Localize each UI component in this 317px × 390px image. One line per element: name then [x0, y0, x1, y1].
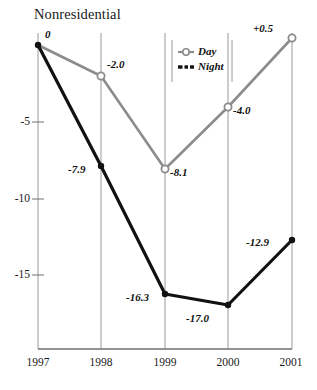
- day-point-2001: [288, 34, 295, 41]
- point-label-day-2001: +0.5: [253, 22, 273, 34]
- night-point-2001: [289, 237, 295, 243]
- night-point-1997: [35, 42, 41, 48]
- legend-label-night: Night: [198, 60, 224, 72]
- point-label-day-1998: -2.0: [107, 58, 124, 70]
- point-label-day-1999: -8.1: [170, 166, 187, 178]
- y-tick-label-minus5: -5: [2, 115, 30, 127]
- point-label-zero: 0: [45, 28, 51, 40]
- series-day: [38, 34, 296, 172]
- point-label-night-2000: -17.0: [186, 312, 209, 324]
- day-point-2000: [224, 103, 231, 110]
- y-tick-label-minus10: -10: [2, 192, 30, 204]
- night-point-2000: [225, 302, 231, 308]
- day-point-1998: [97, 72, 104, 79]
- day-point-1999: [161, 165, 168, 172]
- x-tick-label-1997: 1997: [12, 356, 64, 368]
- chart-container: Nonresidential: [0, 0, 317, 390]
- point-label-day-2000: -4.0: [233, 104, 250, 116]
- night-point-1998: [98, 163, 104, 169]
- night-point-1999: [162, 291, 168, 297]
- x-tick-label-1998: 1998: [75, 356, 127, 368]
- legend-swatch-day: [178, 49, 194, 55]
- point-label-night-2001: -12.9: [246, 236, 269, 248]
- point-label-night-1999: -16.3: [126, 291, 149, 303]
- chart-plot-area: [0, 0, 317, 390]
- y-tick-label-minus15: -15: [2, 268, 30, 280]
- x-tick-label-2001: 2001: [266, 356, 316, 368]
- x-tick-label-2000: 2000: [202, 356, 254, 368]
- legend-label-day: Day: [198, 45, 216, 57]
- x-tick-label-1999: 1999: [139, 356, 191, 368]
- point-label-night-1998: -7.9: [68, 163, 85, 175]
